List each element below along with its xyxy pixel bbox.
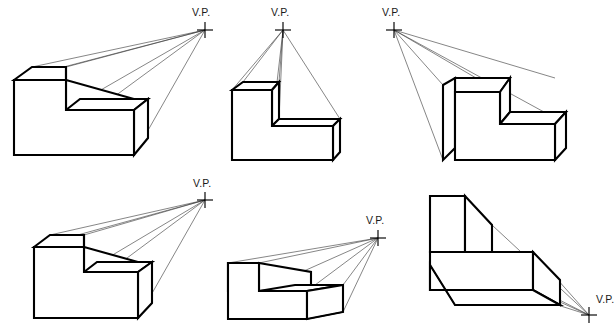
object-top-face xyxy=(14,67,66,80)
figure-3-object xyxy=(443,78,566,160)
figure-4-object xyxy=(34,235,152,318)
ray xyxy=(394,30,555,78)
ray xyxy=(243,30,283,82)
object-right-face xyxy=(138,262,152,318)
vp-label: V.P. xyxy=(193,177,211,189)
object-top-face xyxy=(34,235,84,247)
vp-label: V.P. xyxy=(271,6,289,18)
figure-6-object xyxy=(430,196,560,305)
object-mid-face xyxy=(430,252,533,290)
ray xyxy=(66,30,205,67)
perspective-figures-canvas: V.P. V.P. xyxy=(0,0,616,331)
figure-6-vanishing-point: V.P. xyxy=(581,293,614,323)
figure-1: V.P. xyxy=(14,6,213,155)
ray xyxy=(259,238,378,263)
object-back-face xyxy=(430,196,465,252)
ray xyxy=(394,30,443,160)
ray xyxy=(394,30,443,85)
figure-5-object xyxy=(228,263,343,319)
vp-label: V.P. xyxy=(366,214,384,226)
vp-label: V.P. xyxy=(596,293,614,305)
figure-2-vanishing-point: V.P. xyxy=(271,6,291,38)
figure-6: V.P. xyxy=(430,196,614,323)
figure-4: V.P. xyxy=(34,177,213,318)
object-right-face xyxy=(307,285,343,319)
object-right-face xyxy=(134,99,148,155)
figure-1-vanishing-point: V.P. xyxy=(192,6,213,38)
ray xyxy=(228,238,378,263)
figure-5: V.P. xyxy=(228,214,386,319)
ray xyxy=(84,200,205,235)
figure-3: V.P. xyxy=(382,6,566,160)
object-upper-slope-face xyxy=(465,196,492,252)
figure-1-object xyxy=(14,67,148,155)
ray xyxy=(32,30,205,67)
ray xyxy=(343,238,378,285)
perspective-drawing-sheet: V.P. V.P. xyxy=(0,0,616,331)
vp-label: V.P. xyxy=(382,6,400,18)
object-left-face xyxy=(443,78,455,160)
ray xyxy=(307,238,378,291)
ray xyxy=(283,30,340,119)
figure-2: V.P. xyxy=(232,6,340,160)
vp-label: V.P. xyxy=(192,6,210,18)
object-front-face xyxy=(232,90,333,160)
ray xyxy=(343,238,378,312)
